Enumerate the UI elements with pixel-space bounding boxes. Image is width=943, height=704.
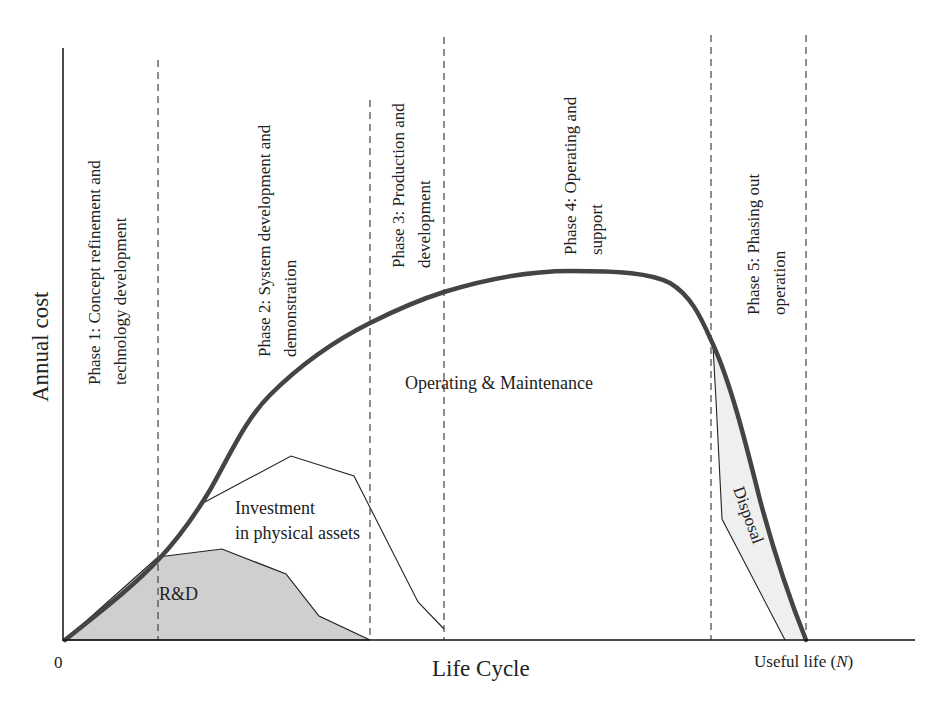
investment-label-line-1: Investment: [235, 498, 315, 518]
phase-2-line-1: Phase 2: System development and: [255, 124, 274, 357]
rd-label: R&D: [159, 584, 198, 604]
origin-label: 0: [54, 653, 63, 672]
phase-3-line-1: Phase 3: Production and: [389, 103, 408, 268]
phase-1-line-2: technology development: [111, 217, 130, 385]
phase-4-line-2: support: [587, 204, 606, 255]
investment-label-line-2: in physical assets: [235, 523, 360, 543]
useful-life-label: Useful life (N): [754, 652, 853, 671]
y-axis-label: Annual cost: [28, 291, 53, 402]
rd-area: [65, 549, 370, 640]
phase-5-label: Phase 5: Phasing out operation: [744, 174, 789, 315]
operating-maintenance-label: Operating & Maintenance: [405, 373, 593, 393]
phase-1-line-1: Phase 1: Concept refinement and: [85, 160, 104, 385]
phase-3-label: Phase 3: Production and development: [389, 103, 434, 268]
phase-4-line-1: Phase 4: Operating and: [561, 96, 580, 255]
phase-2-line-2: demonstration: [281, 259, 300, 357]
life-cycle-cost-diagram: Annual cost Life Cycle 0 Useful life (N)…: [0, 0, 943, 704]
phase-5-line-2: operation: [770, 250, 789, 315]
useful-life-suffix: ): [847, 652, 853, 671]
useful-life-prefix: Useful life (: [754, 652, 836, 671]
phase-2-label: Phase 2: System development and demonstr…: [255, 124, 300, 357]
phase-4-label: Phase 4: Operating and support: [561, 96, 606, 255]
phase-5-line-1: Phase 5: Phasing out: [744, 174, 763, 315]
phase-1-label: Phase 1: Concept refinement and technolo…: [85, 160, 130, 385]
x-axis-label: Life Cycle: [432, 656, 530, 681]
phase-3-line-2: development: [415, 180, 434, 268]
